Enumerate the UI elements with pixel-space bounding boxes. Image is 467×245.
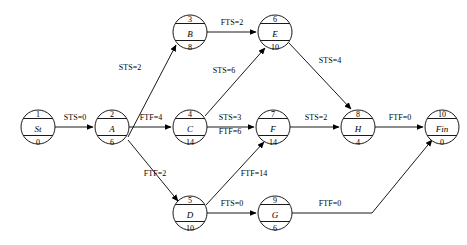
edge-label-c-f-secondary: FTF=6 (219, 127, 241, 136)
node-c-name: C (187, 124, 194, 134)
node-st-id: 1 (36, 110, 40, 119)
node-g-name: G (272, 210, 279, 220)
node-fin-name: Fin (435, 124, 449, 134)
node-b[interactable]: 3 B 8 (173, 15, 207, 52)
node-f[interactable]: 7 F 14 (256, 110, 290, 147)
node-b-id: 3 (188, 15, 192, 24)
edge-label-c-e: STS=6 (213, 66, 235, 75)
node-e-id: 6 (273, 15, 277, 24)
node-st[interactable]: 1 St 0 (21, 110, 55, 147)
node-g-id: 9 (273, 196, 277, 205)
node-d[interactable]: 5 D 10 (173, 196, 207, 233)
edge-label-d-g: FTS=0 (221, 199, 243, 208)
node-fin-duration: 0 (440, 138, 444, 147)
node-d-name: D (186, 210, 194, 220)
node-e[interactable]: 6 E 10 (258, 15, 292, 52)
edge-label-e-h: STS=4 (319, 56, 341, 65)
node-c-duration: 14 (186, 138, 194, 147)
node-h-name: H (354, 124, 362, 134)
network-diagram: 1 St 0 2 A 6 3 B 8 (0, 0, 467, 245)
edge-label-f-h: STS=2 (305, 113, 327, 122)
node-e-duration: 10 (271, 43, 279, 52)
edge-label-h-fin: FTF=0 (389, 113, 411, 122)
edge-label-a-c: FTF=4 (140, 113, 162, 122)
node-st-duration: 0 (36, 138, 40, 147)
edge-a-b (128, 45, 176, 137)
node-a-name: A (108, 124, 115, 134)
edge-g-fin (292, 140, 432, 213)
node-fin-id: 10 (438, 110, 446, 119)
node-f-id: 7 (271, 110, 275, 119)
network-canvas: 1 St 0 2 A 6 3 B 8 (0, 0, 467, 245)
node-h-id: 8 (356, 110, 360, 119)
edge-label-d-f: FTF=14 (241, 169, 267, 178)
node-b-duration: 8 (188, 43, 192, 52)
node-g[interactable]: 9 G 6 (258, 196, 292, 233)
node-fin[interactable]: 10 Fin 0 (425, 110, 459, 147)
edge-label-st-a: STS=0 (64, 113, 86, 122)
node-h-duration: 4 (356, 138, 360, 147)
node-e-name: E (271, 29, 278, 39)
node-c[interactable]: 4 C 14 (173, 110, 207, 147)
node-d-duration: 10 (186, 224, 194, 233)
node-a[interactable]: 2 A 6 (95, 110, 129, 147)
node-a-id: 2 (110, 110, 114, 119)
node-h[interactable]: 8 H 4 (341, 110, 375, 147)
edge-label-c-f: STS=3 (219, 113, 241, 122)
node-b-name: B (187, 29, 193, 39)
edge-label-g-fin: FTF=0 (319, 199, 341, 208)
edge-c-e (205, 48, 265, 116)
node-st-name: St (34, 124, 42, 134)
edge-e-h (289, 43, 351, 109)
edge-label-a-b: STS=2 (119, 63, 141, 72)
edge-label-b-e: FTS=2 (221, 18, 243, 27)
node-d-id: 5 (188, 196, 192, 205)
node-f-duration: 14 (269, 138, 277, 147)
edge-label-a-d: FTF=2 (144, 169, 166, 178)
node-a-duration: 6 (110, 138, 114, 147)
node-c-id: 4 (188, 110, 192, 119)
node-g-duration: 6 (273, 224, 277, 233)
node-f-name: F (269, 124, 276, 134)
